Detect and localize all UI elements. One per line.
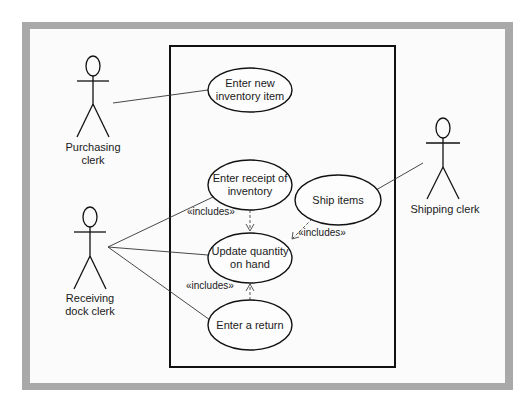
usecase-enter-new-line2: inventory item (216, 90, 284, 103)
usecase-enter-receipt-line2: inventory (213, 185, 288, 198)
usecase-enter-return: Enter a return (206, 300, 294, 350)
usecase-enter-new-line1: Enter new (216, 77, 284, 90)
usecase-enter-new: Enter new inventory item (208, 68, 292, 112)
include-label-ship: «includes» (298, 227, 346, 239)
usecase-update-qty: Update quantity on hand (206, 233, 294, 283)
assoc-receiving-update-qty (108, 247, 208, 255)
usecase-ship-items: Ship items (295, 175, 381, 225)
include-label-receipt: «includes» (187, 206, 235, 218)
usecase-update-qty-line1: Update quantity (211, 245, 288, 258)
actor-shipping-figure (426, 118, 460, 199)
assoc-purchasing-enter-new (113, 90, 208, 103)
usecase-update-qty-line2: on hand (211, 258, 288, 271)
include-label-return: «includes» (186, 280, 234, 292)
actor-purchasing-label-line2: clerk (53, 154, 133, 167)
usecase-enter-receipt: Enter receipt of inventory (206, 160, 294, 210)
actor-shipping-label: Shipping clerk (400, 203, 490, 216)
actor-purchasing-figure (77, 56, 109, 137)
usecase-enter-receipt-line1: Enter receipt of (213, 172, 288, 185)
assoc-receiving-enter-receipt (108, 197, 213, 247)
actor-receiving-label-line2: dock clerk (48, 305, 132, 318)
actor-shipping-label-line1: Shipping clerk (400, 203, 490, 216)
usecase-enter-return-line1: Enter a return (216, 319, 283, 332)
actor-receiving-label: Receiving dock clerk (48, 292, 132, 318)
actor-receiving-figure (74, 207, 106, 289)
actor-purchasing-label-line1: Purchasing (53, 141, 133, 154)
actor-purchasing-label: Purchasing clerk (53, 141, 133, 167)
usecase-ship-items-line1: Ship items (312, 194, 363, 207)
assoc-shipping-ship-items (376, 163, 423, 190)
actor-receiving-label-line1: Receiving (48, 292, 132, 305)
